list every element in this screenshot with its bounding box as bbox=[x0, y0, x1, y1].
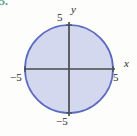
x-axis-name-label: x bbox=[124, 58, 129, 69]
coordinate-plane-plot bbox=[0, 0, 137, 136]
graph-figure: 5. 5 −5 5 −5 y x bbox=[0, 0, 137, 136]
y-axis-tick-label-negative: −5 bbox=[56, 116, 68, 127]
y-axis-tick-label-positive: 5 bbox=[57, 12, 63, 23]
x-axis-tick-label-negative: −5 bbox=[10, 72, 22, 83]
x-axis-tick-label-positive: 5 bbox=[113, 72, 119, 83]
y-axis-name-label: y bbox=[71, 4, 76, 15]
